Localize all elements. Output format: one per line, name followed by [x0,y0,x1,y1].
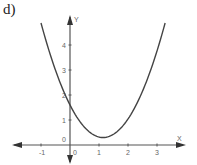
x-tick-label: -1 [39,149,45,156]
y-tick-label: 4 [62,42,66,49]
y-tick-label: 3 [62,67,66,74]
x-tick-label: 0 [73,149,77,156]
parabola-curve [41,23,165,137]
x-axis-right-arrow-icon [176,142,186,148]
y-tick-label: 1 [62,117,66,124]
x-tick-label: 2 [126,149,130,156]
x-tick-label: 3 [155,149,159,156]
x-axis-left-arrow-icon [12,142,22,148]
y-axis-up-arrow-icon [67,15,73,25]
axis-ticks: -1012301234 [39,42,159,157]
parabola-chart: XY -1012301234 [0,0,197,165]
axes: XY [12,15,186,164]
x-axis-label: X [177,135,182,142]
y-tick-label: 0 [62,136,66,143]
y-axis-label: Y [74,16,79,23]
x-tick-label: 1 [97,149,101,156]
y-axis-down-arrow-icon [67,155,73,164]
